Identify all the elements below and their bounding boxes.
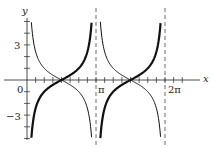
origin-label: 0 — [17, 84, 23, 95]
x-axis-label: x — [203, 73, 209, 84]
x-tick-label-2pi: 2π — [168, 84, 181, 95]
y-axis-label: y — [21, 5, 28, 16]
y-tick-label-3: 3 — [14, 40, 20, 51]
chart: y x 0 3 −3 π 2π — [0, 0, 213, 148]
neg-cot-curve — [100, 23, 160, 138]
x-tick-label-pi: π — [98, 84, 105, 95]
y-tick-label-neg3: −3 — [6, 111, 21, 122]
